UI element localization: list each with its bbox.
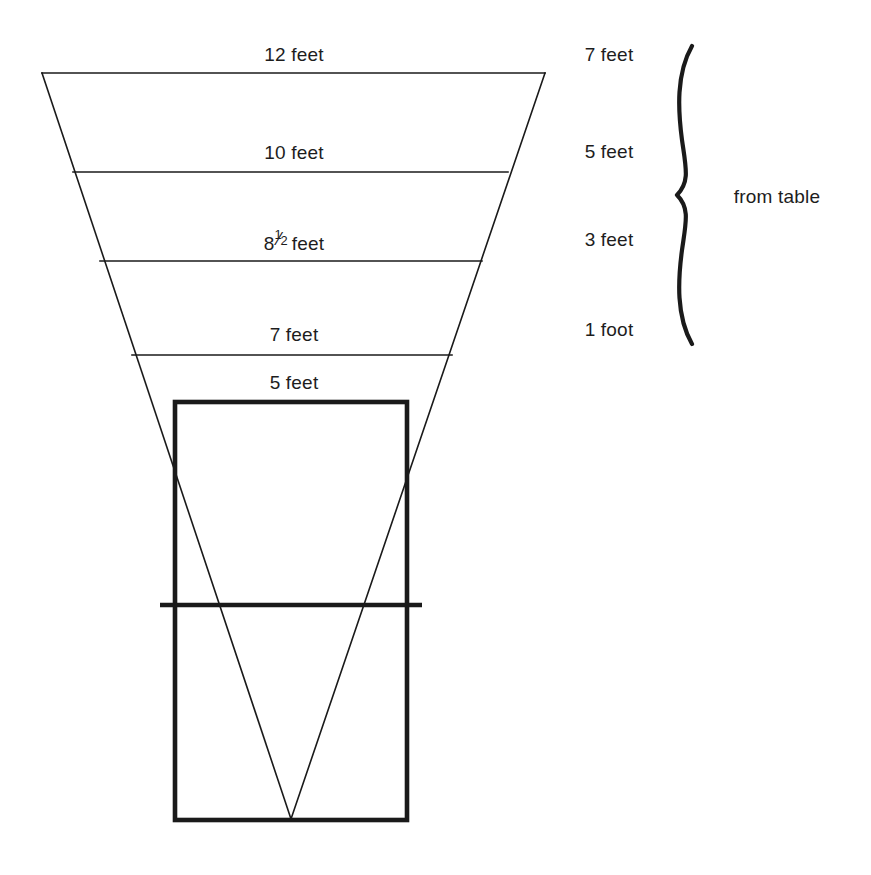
fraction-denominator: 2 [280,233,287,248]
funnel-right-side [291,73,545,819]
brace-annotation-from-table: from table [734,186,820,208]
curly-brace [677,46,692,344]
height-label-3-feet: 3 feet [585,229,634,251]
height-label-1-foot: 1 foot [585,319,634,341]
height-label-7-feet: 7 feet [585,44,634,66]
diagram-page: 12 feet 10 feet 81⁄2 feet 7 feet 5 feet … [0,0,871,875]
funnel-diagram [0,0,871,875]
height-label-5-feet: 5 feet [585,141,634,163]
funnel-outline [42,73,545,819]
width-label-7-feet: 7 feet [270,324,319,346]
width-unit-8-and-a-half: feet [292,233,325,254]
bold-rectangle [175,402,407,820]
width-label-10-feet: 10 feet [264,142,324,164]
width-label-12-feet: 12 feet [264,44,324,66]
width-label-5-feet: 5 feet [270,372,319,394]
fraction-one-half: 1⁄2 [275,231,287,250]
whole-number: 8 [264,233,275,254]
width-label-8-and-a-half-feet: 81⁄2 feet [264,231,325,255]
funnel-left-side [42,73,291,819]
